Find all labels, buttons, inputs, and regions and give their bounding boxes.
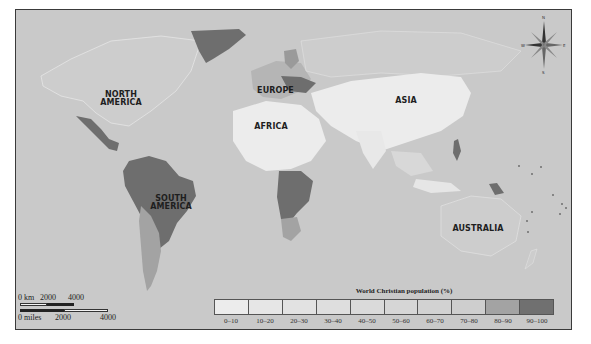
- legend-label-2: 20–30: [282, 317, 316, 325]
- label-asia: ASIA: [391, 97, 421, 105]
- india-shape: [356, 131, 386, 169]
- label-europe: EUROPE: [253, 87, 298, 95]
- pacific-islands: [518, 165, 567, 233]
- scale-miles-zero: 0 miles: [18, 313, 41, 322]
- indonesia-shape: [413, 179, 461, 193]
- compass-n: N: [542, 15, 545, 20]
- legend-label-0: 0–10: [214, 317, 248, 325]
- legend-label-3: 30–40: [316, 317, 350, 325]
- legend-label-6: 60–70: [418, 317, 452, 325]
- label-south-america: SOUTHAMERICA: [141, 195, 201, 211]
- label-australia: AUSTRALIA: [448, 225, 508, 233]
- russia-shape: [301, 31, 521, 77]
- north-africa-shape: [233, 101, 326, 171]
- compass-icon: [521, 15, 567, 75]
- scale-miles-4000: 4000: [100, 313, 116, 322]
- legend-label-1: 10–20: [248, 317, 282, 325]
- papua-new-guinea-shape: [489, 183, 504, 195]
- legend-label-7: 70–80: [452, 317, 486, 325]
- legend-label-5: 50–60: [384, 317, 418, 325]
- legend-label-9: 90–100: [520, 317, 554, 325]
- new-zealand-shape: [525, 249, 537, 269]
- scale-km-4000: 4000: [68, 293, 84, 302]
- legend-label-8: 80–90: [486, 317, 520, 325]
- compass-rose: N S W E: [521, 15, 567, 75]
- scale-km-bar-light: [20, 303, 47, 306]
- legend-labels: 0–10 10–20 20–30 30–40 40–50 50–60 60–70…: [214, 317, 554, 325]
- asia-main-shape: [311, 73, 471, 151]
- legend-swatch-9: [520, 300, 553, 314]
- central-africa-shape: [277, 171, 313, 223]
- map-frame: NORTHAMERICA EUROPE AFRICA ASIA SOUTHAME…: [15, 9, 572, 330]
- scale-miles-bar-dark: [20, 309, 64, 312]
- legend-swatch-0: [215, 300, 249, 314]
- scale-km-2000: 2000: [40, 293, 56, 302]
- southern-africa-shape: [281, 217, 301, 241]
- scale-miles-2000: 2000: [55, 313, 71, 322]
- legend-title: World Christian population (%): [254, 286, 554, 296]
- scale-bar: 0 km 2000 4000 0 miles 2000 4000: [18, 293, 128, 323]
- compass-e: E: [563, 43, 566, 48]
- legend: World Christian population (%) 0–10 10–2…: [214, 286, 554, 325]
- legend-swatch-2: [283, 300, 317, 314]
- legend-swatches: [214, 299, 554, 315]
- greenland-shape: [191, 29, 246, 63]
- scale-km-zero: 0 km: [18, 293, 34, 302]
- legend-label-4: 40–50: [350, 317, 384, 325]
- legend-swatch-5: [385, 300, 419, 314]
- southeast-asia-shape: [391, 151, 433, 176]
- legend-swatch-6: [418, 300, 452, 314]
- legend-swatch-4: [351, 300, 385, 314]
- world-map: [16, 10, 572, 330]
- legend-swatch-1: [249, 300, 283, 314]
- compass-w: W: [521, 43, 525, 48]
- legend-swatch-3: [317, 300, 351, 314]
- scale-miles-bar-light: [64, 309, 108, 312]
- label-north-america: NORTHAMERICA: [91, 91, 151, 107]
- legend-swatch-7: [452, 300, 486, 314]
- compass-s: S: [542, 70, 545, 75]
- scale-km-bar-dark: [47, 303, 74, 306]
- north-america-shape: [41, 36, 201, 126]
- label-africa: AFRICA: [251, 123, 291, 131]
- philippines-shape: [453, 139, 461, 161]
- legend-swatch-8: [486, 300, 520, 314]
